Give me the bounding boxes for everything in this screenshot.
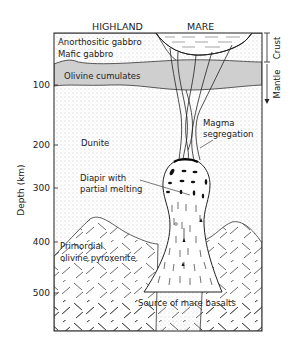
crust-label: Crust <box>272 36 282 59</box>
primordial-label-1: Primordial <box>60 241 103 251</box>
highland-label: HIGHLAND <box>92 21 143 32</box>
olivine-cumulates-label: Olivine cumulates <box>64 71 141 81</box>
lunar-crust-diagram: HIGHLAND MARE <box>0 0 294 347</box>
magma-segregation-label-2: segregation <box>203 129 253 139</box>
mafic-gabbro-label: Mafic gabbro <box>58 49 113 59</box>
tick-100: 100 <box>33 80 50 90</box>
primordial-label-2: olivine pyroxenite <box>60 253 136 263</box>
tick-500: 500 <box>33 288 50 298</box>
magma-segregation-label-1: Magma <box>203 118 234 128</box>
tick-400: 400 <box>33 237 50 247</box>
mantle-arrow-icon <box>265 99 270 104</box>
mantle-label: Mantle <box>272 70 282 99</box>
depth-axis-label: Depth (km) <box>16 164 26 215</box>
tick-200: 200 <box>33 140 50 150</box>
tick-300: 300 <box>33 183 50 193</box>
dunite-label: Dunite <box>81 138 109 148</box>
anorthositic-gabbro-label: Anorthositic gabbro <box>58 37 142 47</box>
mare-label: MARE <box>187 21 214 32</box>
diapir-label-2: partial melting <box>80 184 142 194</box>
source-label: Source of mare basalts <box>138 298 236 308</box>
diapir-label-1: Diapir with <box>80 173 126 183</box>
